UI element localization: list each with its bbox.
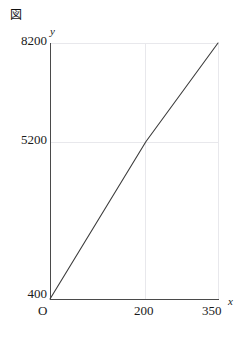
data-series-line	[50, 43, 218, 299]
plot-area	[50, 43, 219, 300]
x-tick-label-origin: O	[38, 303, 47, 319]
y-tick-label-5200: 5200	[21, 132, 47, 148]
figure-container: 図 y x 8200 5200 400 O 200 350	[0, 0, 247, 339]
figure-label-icon: 図	[9, 8, 23, 22]
y-tick-label-400: 400	[28, 286, 48, 302]
x-axis-name: x	[228, 295, 233, 307]
y-axis-name: y	[50, 25, 55, 37]
x-tick-label-200: 200	[134, 303, 154, 319]
data-line-svg	[50, 43, 219, 300]
y-tick-label-8200: 8200	[21, 33, 47, 49]
x-tick-label-350: 350	[202, 303, 222, 319]
